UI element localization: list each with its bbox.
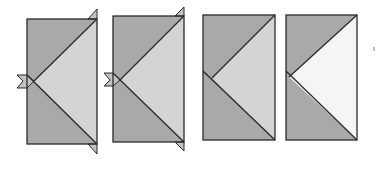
edge-mark (373, 47, 375, 51)
panel-4 (286, 15, 357, 140)
panel-3 (203, 15, 275, 140)
panel-1 (17, 9, 97, 154)
diagram-canvas (0, 0, 376, 169)
panel-2 (104, 7, 184, 151)
flying-geese-diagram (0, 0, 376, 169)
